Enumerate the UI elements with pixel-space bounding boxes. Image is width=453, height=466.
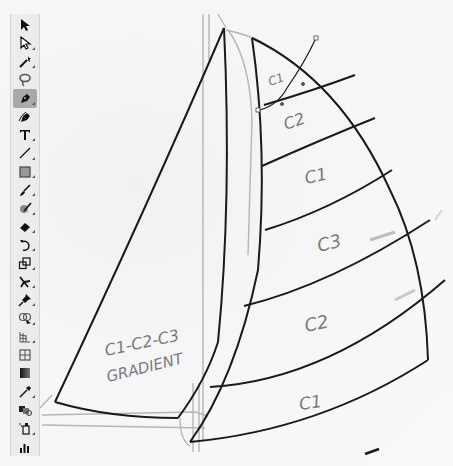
symbol-sprayer-tool[interactable] — [13, 419, 37, 437]
magic-wand-icon — [18, 55, 32, 69]
flyout-indicator — [32, 395, 35, 398]
black-arrow-icon — [18, 18, 32, 32]
rectangle-tool[interactable] — [13, 163, 37, 181]
pin-tool[interactable] — [13, 291, 37, 309]
flyout-indicator — [32, 285, 35, 288]
type-tool[interactable] — [13, 126, 37, 144]
sailboat-sketch: C1 C2 C1 C3 C2 C1 C1-C2-C3 GRADIENT — [0, 0, 453, 466]
eraser-icon — [18, 220, 32, 234]
eyedropper-tool[interactable] — [13, 383, 37, 401]
blend-icon — [18, 403, 32, 417]
flyout-indicator — [32, 303, 35, 306]
flyout-indicator — [32, 267, 35, 270]
puppet-warp-icon — [18, 275, 32, 289]
column-graph-icon — [18, 440, 32, 454]
lasso-icon — [18, 73, 32, 87]
flyout-indicator — [32, 102, 35, 105]
curvature-pen-icon — [18, 110, 32, 124]
brush-icon — [18, 183, 32, 197]
magic-wand-tool[interactable] — [13, 53, 37, 71]
shaper-tool[interactable] — [13, 199, 37, 217]
eyedropper-icon — [18, 385, 32, 399]
mesh-icon — [18, 348, 32, 362]
blend-tool[interactable] — [13, 401, 37, 419]
pen-icon — [18, 91, 32, 105]
pin-icon — [18, 293, 32, 307]
curvature-tool[interactable] — [13, 108, 37, 126]
gradient-icon — [18, 366, 32, 380]
direct-selection-tool[interactable] — [13, 34, 37, 52]
scale-icon — [18, 256, 32, 270]
flyout-indicator — [32, 175, 35, 178]
line-segment-tool[interactable] — [13, 144, 37, 162]
puppet-warp-tool[interactable] — [13, 273, 37, 291]
line-icon — [18, 146, 32, 160]
label-c2-lower: C2 — [302, 310, 330, 336]
flyout-indicator — [32, 212, 35, 215]
rectangle-icon — [18, 165, 32, 179]
scale-tool[interactable] — [13, 254, 37, 272]
flyout-indicator — [32, 248, 35, 251]
flyout-indicator — [32, 157, 35, 160]
eraser-tool[interactable] — [13, 218, 37, 236]
flyout-indicator — [32, 230, 35, 233]
label-top-c1: C1 — [266, 70, 286, 89]
flyout-indicator — [32, 193, 35, 196]
mesh-tool[interactable] — [13, 346, 37, 364]
flyout-indicator — [32, 340, 35, 343]
column-graph-tool[interactable] — [13, 438, 37, 456]
lasso-tool[interactable] — [13, 71, 37, 89]
flyout-indicator — [32, 432, 35, 435]
selection-tool[interactable] — [13, 16, 37, 34]
flyout-indicator — [32, 47, 35, 50]
perspective-grid-tool[interactable] — [13, 328, 37, 346]
shape-builder-tool[interactable] — [13, 309, 37, 327]
label-c2-upper: C2 — [281, 109, 308, 134]
handwritten-labels: C1 C2 C1 C3 C2 C1 C1-C2-C3 GRADIENT — [103, 70, 343, 414]
paintbrush-tool[interactable] — [13, 181, 37, 199]
ink-mark — [365, 449, 379, 454]
label-c1-middle: C1 — [303, 164, 329, 188]
flyout-indicator — [32, 65, 35, 68]
label-c3: C3 — [315, 230, 343, 256]
type-icon — [18, 128, 32, 142]
white-arrow-icon — [18, 36, 32, 50]
flyout-indicator — [32, 322, 35, 325]
pen-tool[interactable] — [13, 89, 37, 107]
symbol-sprayer-icon — [18, 421, 32, 435]
rotate-tool[interactable] — [13, 236, 37, 254]
label-c1-bottom: C1 — [298, 391, 323, 414]
gradient-tool[interactable] — [13, 364, 37, 382]
tools-panel — [10, 14, 40, 456]
shaper-icon — [18, 201, 32, 215]
artboard-canvas[interactable]: C1 C2 C1 C3 C2 C1 C1-C2-C3 GRADIENT — [0, 0, 453, 466]
bezier-handles — [256, 36, 318, 112]
perspective-grid-icon — [18, 330, 32, 344]
flyout-indicator — [32, 138, 35, 141]
shape-builder-icon — [18, 311, 32, 325]
rotate-icon — [18, 238, 32, 252]
